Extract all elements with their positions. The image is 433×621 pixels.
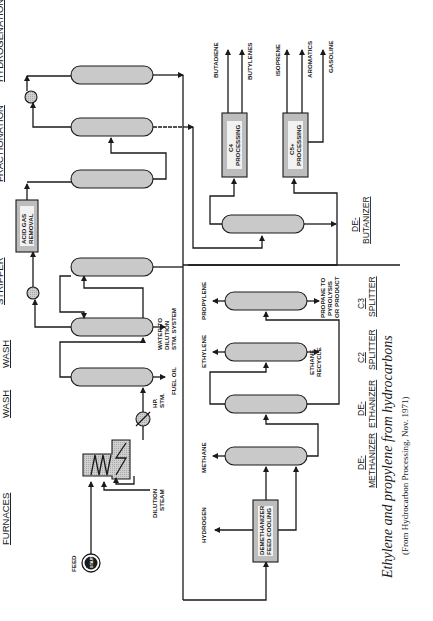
demethanizer-column	[225, 447, 307, 465]
quench-section: FUEL OIL WATER TO DILUTION STM. SYSTEM A…	[16, 182, 183, 412]
methane-label: METHANE	[200, 442, 207, 473]
propane-label-2: PYROLYSIS	[326, 281, 333, 316]
demeth-cooling-label-2: FEED COOLING	[265, 508, 272, 555]
process-flow-diagram: FURNACES WASH WASH STRIPPER FRACTIONATIO…	[0, 0, 433, 621]
butadiene-label: BUTADIENE	[212, 42, 219, 78]
acid-gas-label-1: ACID GAS	[20, 214, 27, 244]
section-labels: FURNACES WASH WASH STRIPPER FRACTIONATIO…	[0, 0, 11, 545]
dilution-steam-label-2: STEAM	[158, 489, 165, 511]
section-label-wash-1: WASH	[0, 390, 11, 418]
feed-label: FEED	[70, 555, 77, 572]
water-to-dilution-label-1: WATER TO	[156, 318, 163, 350]
water-to-dilution-label-3: STM. SYSTEM	[170, 308, 177, 350]
unit-label-c2-splitter-2: SPLITTER	[367, 329, 377, 370]
isoprene-label: ISOPRENE	[274, 44, 281, 76]
water-wash-column	[71, 318, 153, 336]
section-label-furnaces: FURNACES	[0, 493, 11, 545]
fractionation-section	[25, 66, 193, 188]
start-badge-label: START	[89, 554, 94, 568]
compressor-2	[25, 91, 37, 103]
unit-label-deethanizer-2: ETHANIZER	[367, 380, 377, 428]
hydrogenation-column	[71, 66, 153, 84]
acid-gas-label-2: REMOVAL	[27, 213, 34, 244]
figure-caption: Ethylene and propylene from hydrocarbons	[380, 335, 395, 579]
dilution-steam-label-1: DILUTION	[151, 488, 158, 518]
unit-label-deethanizer-1: DE-	[356, 401, 366, 416]
ethylene-label: ETHYLENE	[200, 335, 207, 368]
light-ends-section: DEMETHANIZER FEED COOLING HYDROGEN METHA…	[183, 276, 340, 600]
c4-label-1: C4	[227, 144, 234, 152]
c5-label-1: C5+	[288, 143, 295, 155]
propane-label-3: OR PRODUCT	[333, 276, 340, 318]
ethane-recycle-label-1: ETHANE	[308, 350, 315, 375]
c4-label-2: PROCESSING	[234, 125, 241, 166]
unit-label-c3-splitter-1: C3	[356, 298, 366, 309]
oil-wash-column	[71, 368, 153, 386]
section-label-fractionation: FRACTIONATION	[0, 105, 5, 182]
section-label-hydrogenation: HYDROGENATION	[0, 0, 5, 82]
unit-label-c3-splitter-2: SPLITTER	[367, 276, 377, 317]
ethane-recycle-label-2: RECYCLE	[315, 347, 322, 377]
propylene-label: PROPYLENE	[200, 282, 207, 320]
unit-label-debutanizer-1: DE-	[350, 217, 360, 232]
unit-labels: DE- METHANIZER DE- ETHANIZER C2 SPLITTER…	[350, 196, 377, 488]
furnace-section: START FEED DILUTION STEAM HP. STM.	[70, 393, 165, 572]
section-label-wash-2: WASH	[0, 340, 11, 368]
unit-label-c2-splitter-1: C2	[356, 352, 366, 363]
unit-label-debutanizer-2: BUTANIZER	[361, 196, 371, 244]
heavy-ends-section: C4 PROCESSING BUTADIENE BUTYLENES C5+ PR…	[183, 41, 337, 265]
gasoline-label: GASOLINE	[327, 41, 334, 73]
fuel-oil-label: FUEL OIL	[170, 367, 177, 395]
debutanizer-column	[222, 215, 304, 233]
propane-label-1: PROPANE TO	[319, 277, 326, 318]
fractionation-column-2	[71, 118, 153, 136]
deethanizer-column	[225, 395, 307, 413]
unit-label-demethanizer-2: METHANIZER	[367, 433, 377, 488]
demeth-cooling-label-1: DEMETHANIZER	[258, 505, 265, 555]
compressor-1	[27, 287, 39, 299]
butylenes-label: BUTYLENES	[246, 43, 253, 80]
c5-label-2: PROCESSING	[295, 125, 302, 166]
water-to-dilution-label-2: DILUTION	[163, 320, 170, 350]
fractionation-column-1	[71, 170, 153, 188]
c3-splitter-column	[225, 292, 307, 310]
figure-source: (From Hydrocarbon Processing, Nov. 1971)	[400, 397, 410, 555]
hydrogen-label: HYDROGEN	[200, 507, 207, 543]
aromatics-label: AROMATICS	[306, 41, 313, 78]
hp-steam-label-1: HP.	[151, 398, 158, 408]
hp-steam-label-2: STM.	[158, 393, 165, 408]
section-label-stripper: STRIPPER	[0, 257, 5, 305]
stripper-column	[71, 258, 153, 276]
c2-splitter-column	[225, 343, 307, 361]
unit-label-demethanizer-1: DE-	[356, 455, 366, 470]
